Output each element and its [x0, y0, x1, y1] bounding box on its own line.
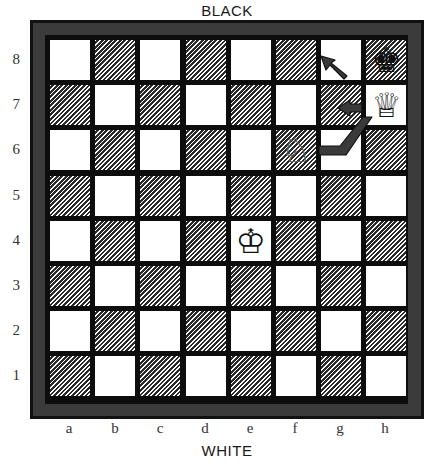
- square-h1: [366, 356, 406, 396]
- square-f1: [276, 356, 316, 396]
- square-g4: [321, 221, 361, 261]
- square-c4: [140, 221, 180, 261]
- square-f7: [276, 85, 316, 125]
- square-d6: [186, 130, 226, 170]
- square-b8: [95, 40, 135, 80]
- square-e8: [231, 40, 271, 80]
- square-c6: [140, 130, 180, 170]
- square-f4: [276, 221, 316, 261]
- square-h4: [366, 221, 406, 261]
- square-g1: [321, 356, 361, 396]
- square-f5: [276, 176, 316, 216]
- square-a1: [50, 356, 90, 396]
- square-g7: [321, 85, 361, 125]
- file-label-h: h: [375, 420, 395, 437]
- square-f2: [276, 311, 316, 351]
- rank-label-5: 5: [0, 187, 20, 204]
- square-a3: [50, 266, 90, 306]
- square-b2: [95, 311, 135, 351]
- square-d5: [186, 176, 226, 216]
- square-e2: [231, 311, 271, 351]
- square-b7: [95, 85, 135, 125]
- file-label-a: a: [59, 420, 79, 437]
- bottom-side-label: WHITE: [12, 442, 430, 459]
- square-a2: [50, 311, 90, 351]
- square-d3: [186, 266, 226, 306]
- square-d7: [186, 85, 226, 125]
- rank-label-4: 4: [0, 232, 20, 249]
- square-a7: [50, 85, 90, 125]
- white-knight-icon: ♘: [276, 130, 316, 170]
- square-h3: [366, 266, 406, 306]
- square-c7: [140, 85, 180, 125]
- square-a8: [50, 40, 90, 80]
- square-c1: [140, 356, 180, 396]
- black-king-icon: ♚: [366, 40, 406, 80]
- rank-label-3: 3: [0, 277, 20, 294]
- square-g3: [321, 266, 361, 306]
- square-g2: [321, 311, 361, 351]
- file-label-f: f: [285, 420, 305, 437]
- file-label-d: d: [195, 420, 215, 437]
- square-b1: [95, 356, 135, 396]
- square-g6: [321, 130, 361, 170]
- square-h6: [366, 130, 406, 170]
- white-queen-icon: ♕: [366, 85, 406, 125]
- square-h5: [366, 176, 406, 216]
- square-a4: [50, 221, 90, 261]
- square-b5: [95, 176, 135, 216]
- white-king-icon: ♔: [231, 221, 271, 261]
- rank-label-2: 2: [0, 322, 20, 339]
- chess-board: [45, 35, 408, 404]
- square-d1: [186, 356, 226, 396]
- top-side-label: BLACK: [12, 2, 430, 19]
- square-c2: [140, 311, 180, 351]
- rank-label-1: 1: [0, 367, 20, 384]
- square-b3: [95, 266, 135, 306]
- square-e7: [231, 85, 271, 125]
- square-d8: [186, 40, 226, 80]
- square-e6: [231, 130, 271, 170]
- rank-label-6: 6: [0, 141, 20, 158]
- square-e1: [231, 356, 271, 396]
- square-g8: [321, 40, 361, 80]
- file-label-e: e: [240, 420, 260, 437]
- square-e5: [231, 176, 271, 216]
- square-b4: [95, 221, 135, 261]
- square-c5: [140, 176, 180, 216]
- square-a6: [50, 130, 90, 170]
- file-label-c: c: [150, 420, 170, 437]
- file-label-g: g: [330, 420, 350, 437]
- square-c3: [140, 266, 180, 306]
- square-e3: [231, 266, 271, 306]
- square-h2: [366, 311, 406, 351]
- square-c8: [140, 40, 180, 80]
- square-g5: [321, 176, 361, 216]
- square-d4: [186, 221, 226, 261]
- square-a5: [50, 176, 90, 216]
- square-f3: [276, 266, 316, 306]
- square-f8: [276, 40, 316, 80]
- square-b6: [95, 130, 135, 170]
- rank-label-8: 8: [0, 51, 20, 68]
- file-label-b: b: [105, 420, 125, 437]
- rank-label-7: 7: [0, 96, 20, 113]
- square-d2: [186, 311, 226, 351]
